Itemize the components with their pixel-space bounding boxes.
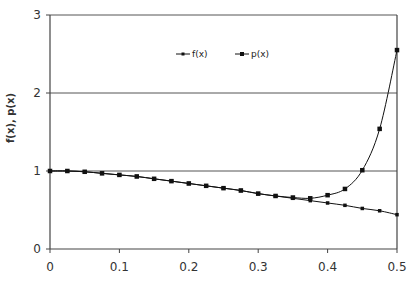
data-point — [308, 196, 313, 201]
axes — [50, 15, 397, 249]
series-line — [50, 50, 397, 198]
data-point — [361, 207, 365, 211]
data-point — [239, 188, 244, 193]
x-tick-label: 0.4 — [318, 260, 337, 274]
legend-label-fx: f(x) — [192, 49, 208, 59]
data-point — [395, 213, 399, 217]
x-tick-label: 0.3 — [249, 260, 268, 274]
gridlines — [50, 15, 397, 171]
data-point — [221, 186, 226, 191]
data-point — [378, 209, 382, 213]
data-point — [204, 184, 209, 189]
data-point — [82, 170, 87, 175]
y-ticks: 0123 — [33, 8, 50, 256]
legend-label-px: p(x) — [251, 49, 269, 59]
y-tick-label: 3 — [33, 8, 41, 22]
data-point — [117, 173, 122, 178]
data-point — [343, 187, 348, 192]
y-tick-label: 2 — [33, 86, 41, 100]
data-point — [169, 179, 174, 184]
data-point — [273, 194, 278, 199]
data-point — [326, 201, 330, 205]
legend-item-fx: f(x) — [176, 49, 208, 59]
x-ticks: 00.10.20.30.40.5 — [46, 249, 406, 274]
legend-item-px: p(x) — [235, 49, 269, 59]
x-tick-label: 0.2 — [179, 260, 198, 274]
data-point — [65, 169, 70, 174]
data-point — [256, 191, 261, 196]
chart: 00.10.20.30.40.5 0123 f(x), p(x) f(x) p(… — [0, 0, 415, 286]
data-point — [343, 204, 347, 208]
series-px — [48, 48, 400, 201]
data-point — [100, 171, 105, 176]
data-point — [360, 168, 365, 173]
data-point — [135, 174, 140, 179]
x-tick-label: 0 — [46, 260, 54, 274]
y-axis-label: f(x), p(x) — [5, 93, 16, 143]
x-tick-label: 0.1 — [110, 260, 129, 274]
x-tick-label: 0.5 — [387, 260, 406, 274]
series-line — [50, 171, 397, 215]
data-point — [325, 193, 330, 198]
legend-marker-fx — [182, 53, 185, 56]
series-group — [48, 48, 400, 217]
y-tick-label: 0 — [33, 242, 41, 256]
y-tick-label: 1 — [33, 164, 41, 178]
data-point — [377, 127, 382, 132]
legend: f(x) p(x) — [176, 49, 269, 59]
data-point — [395, 48, 400, 53]
data-point — [291, 195, 296, 200]
data-point — [187, 181, 192, 186]
series-fx — [48, 169, 399, 216]
data-point — [152, 177, 157, 182]
data-point — [48, 169, 53, 174]
legend-marker-px — [240, 52, 244, 56]
